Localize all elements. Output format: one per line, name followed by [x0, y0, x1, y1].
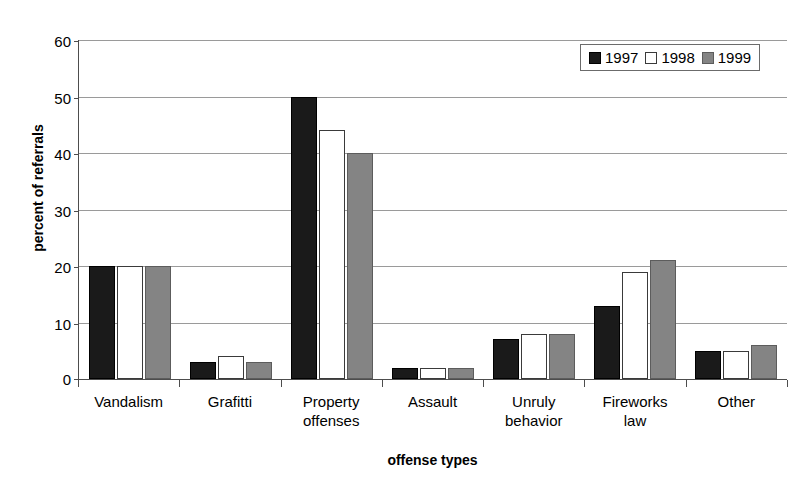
bar [117, 266, 143, 379]
x-tick-mark [382, 380, 383, 387]
x-axis-labels: VandalismGrafittiProperty offensesAssaul… [78, 392, 787, 430]
x-tick-mark [179, 380, 180, 387]
x-axis-category-label: Unruly behavior [483, 392, 584, 430]
bar [190, 362, 216, 379]
y-tick-label: 30 [31, 202, 71, 219]
bar-group [484, 40, 585, 379]
plot-area: 0102030405060 [78, 40, 787, 380]
x-axis-title: offense types [78, 452, 787, 468]
legend-item: 1998 [645, 49, 694, 66]
x-tick-mark [78, 380, 79, 387]
bar-group [686, 40, 787, 379]
legend-item: 1997 [589, 49, 638, 66]
legend: 199719981999 [580, 44, 760, 71]
legend-label: 1998 [661, 49, 694, 66]
x-axis-ticks [78, 380, 787, 388]
x-tick-mark [787, 380, 788, 387]
legend-label: 1997 [605, 49, 638, 66]
legend-swatch-icon [589, 52, 601, 64]
bar [392, 368, 418, 379]
y-tick-label: 50 [31, 89, 71, 106]
x-axis-category-label: Fireworks law [584, 392, 685, 430]
bar [650, 260, 676, 379]
y-tick-label: 10 [31, 315, 71, 332]
x-axis-category-label: Property offenses [281, 392, 382, 430]
bar-group [382, 40, 483, 379]
y-tick-label: 20 [31, 259, 71, 276]
bar [218, 356, 244, 379]
x-tick-mark [686, 380, 687, 387]
bar [695, 351, 721, 379]
bar-group [281, 40, 382, 379]
bar [723, 351, 749, 379]
legend-item: 1999 [702, 49, 751, 66]
bar [420, 368, 446, 379]
bar [594, 306, 620, 379]
x-axis-category-label: Vandalism [78, 392, 179, 430]
legend-swatch-icon [702, 52, 714, 64]
bar-chart: percent of referrals 0102030405060 Vanda… [0, 0, 807, 500]
bar [448, 368, 474, 379]
bars-layer [79, 40, 787, 379]
bar [291, 97, 317, 380]
bar [89, 266, 115, 379]
bar-group [585, 40, 686, 379]
y-tick-label: 40 [31, 146, 71, 163]
bar [521, 334, 547, 379]
legend-swatch-icon [645, 52, 657, 64]
x-tick-mark [584, 380, 585, 387]
bar [145, 266, 171, 379]
y-tick-label: 60 [31, 33, 71, 50]
bar [493, 339, 519, 379]
x-axis-category-label: Grafitti [179, 392, 280, 430]
bar [751, 345, 777, 379]
bar [246, 362, 272, 379]
bar [347, 153, 373, 379]
bar [549, 334, 575, 379]
legend-label: 1999 [718, 49, 751, 66]
bar [622, 272, 648, 379]
x-tick-mark [483, 380, 484, 387]
bar-group [79, 40, 180, 379]
x-axis-category-label: Other [686, 392, 787, 430]
bar-group [180, 40, 281, 379]
x-axis-category-label: Assault [382, 392, 483, 430]
x-tick-mark [281, 380, 282, 387]
bar [319, 130, 345, 379]
y-tick-label: 0 [31, 371, 71, 388]
